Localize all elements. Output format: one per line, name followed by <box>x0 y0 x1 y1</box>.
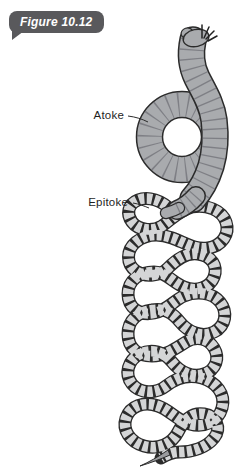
atoke-label: Atoke <box>94 109 124 122</box>
figure-panel: Figure 10.12 <box>0 0 247 476</box>
figure-number-tag: Figure 10.12 <box>9 11 104 33</box>
atoke-taper-tip <box>166 208 179 213</box>
worm-diagram <box>0 0 247 476</box>
epitoke-label: Epitoke <box>88 196 128 209</box>
atoke-body <box>150 40 216 213</box>
epitoke-chain <box>125 198 227 466</box>
